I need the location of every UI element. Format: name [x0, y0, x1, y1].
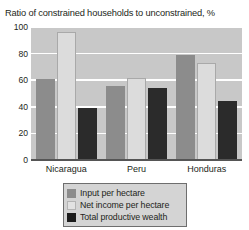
bar — [36, 79, 55, 160]
bar-group — [172, 27, 242, 160]
bar — [218, 101, 237, 160]
x-axis-category-label: Peru — [101, 164, 171, 174]
legend-swatch-icon — [67, 213, 76, 222]
bar-group — [31, 27, 101, 160]
y-axis-tick-label: 40 — [0, 102, 28, 112]
bar — [78, 108, 97, 160]
bar — [106, 86, 125, 160]
bar — [197, 63, 216, 160]
chart-legend: Input per hectareNet income per hectareT… — [63, 183, 187, 227]
bar — [57, 32, 76, 160]
legend-swatch-icon — [67, 189, 76, 198]
plot-area — [31, 27, 242, 160]
y-axis-tick-label: 100 — [0, 22, 28, 32]
legend-item-label: Total productive wealth — [80, 212, 167, 222]
y-axis-tick-label: 0 — [0, 155, 28, 165]
legend-item: Input per hectare — [67, 187, 182, 199]
legend-item-label: Net income per hectare — [80, 200, 169, 210]
x-axis-baseline — [31, 159, 242, 161]
y-axis-tick-label: 80 — [0, 49, 28, 59]
chart-title: Ratio of constrained households to uncon… — [5, 8, 215, 18]
legend-item-label: Input per hectare — [80, 188, 145, 198]
y-axis-tick-label: 20 — [0, 128, 28, 138]
bar — [148, 88, 167, 160]
legend-item: Total productive wealth — [67, 211, 182, 223]
x-axis-category-label: Nicaragua — [31, 164, 101, 174]
legend-swatch-icon — [67, 201, 76, 210]
x-axis-category-label: Honduras — [172, 164, 242, 174]
bar-chart-figure: Ratio of constrained households to uncon… — [0, 0, 249, 230]
bar-group — [101, 27, 171, 160]
y-axis: 020406080100 — [0, 27, 28, 160]
bar — [127, 78, 146, 160]
bar — [176, 55, 195, 160]
y-axis-tick-label: 60 — [0, 75, 28, 85]
legend-item: Net income per hectare — [67, 199, 182, 211]
